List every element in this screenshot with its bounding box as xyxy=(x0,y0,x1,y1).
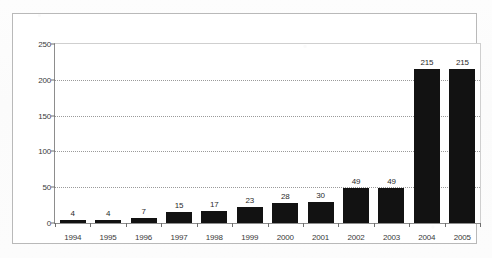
y-tick-label-0: 0 xyxy=(47,219,51,228)
x-tick-label-1994: 1994 xyxy=(64,233,81,242)
x-tick-label-2004: 2004 xyxy=(418,233,435,242)
bar-2003[interactable] xyxy=(378,188,404,223)
bar-group-1999: 231999 xyxy=(232,44,267,223)
bar-2000[interactable] xyxy=(272,203,298,223)
x-tick-mark-2001 xyxy=(303,223,304,227)
bar-value-label-2002: 49 xyxy=(352,177,361,186)
bar-group-1996: 71996 xyxy=(126,44,161,223)
x-tick-mark-end xyxy=(480,223,481,227)
bar-value-label-1996: 7 xyxy=(141,207,145,216)
bar-group-2002: 492002 xyxy=(338,44,373,223)
scanned-page-background: 050100150200250 419944199571996151997171… xyxy=(0,0,492,258)
y-tick-label-250: 250 xyxy=(38,40,51,49)
x-tick-label-2003: 2003 xyxy=(383,233,400,242)
bar-2005[interactable] xyxy=(449,69,475,223)
bar-group-1997: 151997 xyxy=(161,44,196,223)
x-tick-mark-1997 xyxy=(161,223,162,227)
bar-1994[interactable] xyxy=(60,220,86,223)
y-tick-label-50: 50 xyxy=(43,183,52,192)
bar-1998[interactable] xyxy=(201,211,227,223)
bar-2002[interactable] xyxy=(343,188,369,223)
x-tick-mark-1999 xyxy=(232,223,233,227)
bar-value-label-1998: 17 xyxy=(210,200,219,209)
bar-value-label-1999: 23 xyxy=(246,196,255,205)
bar-value-label-2005: 215 xyxy=(456,58,469,67)
x-tick-mark-1998 xyxy=(197,223,198,227)
bar-value-label-2004: 215 xyxy=(420,58,433,67)
chart-plot-area: 050100150200250 419944199571996151997171… xyxy=(54,43,481,224)
x-tick-label-1996: 1996 xyxy=(135,233,152,242)
x-tick-mark-1994 xyxy=(55,223,56,227)
x-tick-mark-1996 xyxy=(126,223,127,227)
x-tick-label-1997: 1997 xyxy=(170,233,187,242)
y-tick-label-100: 100 xyxy=(38,147,51,156)
bar-1997[interactable] xyxy=(166,212,192,223)
x-tick-mark-2003 xyxy=(374,223,375,227)
bar-1996[interactable] xyxy=(131,218,157,223)
bar-value-label-1997: 15 xyxy=(175,201,184,210)
bar-group-1998: 171998 xyxy=(197,44,232,223)
bar-group-2003: 492003 xyxy=(374,44,409,223)
bar-2004[interactable] xyxy=(414,69,440,223)
x-tick-label-2001: 2001 xyxy=(312,233,329,242)
x-tick-label-1999: 1999 xyxy=(241,233,258,242)
x-tick-mark-2004 xyxy=(409,223,410,227)
bar-2001[interactable] xyxy=(308,202,334,223)
bar-group-2001: 302001 xyxy=(303,44,338,223)
bar-group-1994: 41994 xyxy=(55,44,90,223)
x-tick-mark-2000 xyxy=(268,223,269,227)
x-tick-label-2002: 2002 xyxy=(348,233,365,242)
x-tick-label-2005: 2005 xyxy=(454,233,471,242)
x-tick-mark-2002 xyxy=(338,223,339,227)
bar-value-label-2003: 49 xyxy=(387,177,396,186)
bar-value-label-2000: 28 xyxy=(281,192,290,201)
x-tick-label-1995: 1995 xyxy=(100,233,117,242)
bar-1999[interactable] xyxy=(237,207,263,223)
bar-value-label-2001: 30 xyxy=(316,191,325,200)
x-tick-label-2000: 2000 xyxy=(277,233,294,242)
y-tick-label-200: 200 xyxy=(38,75,51,84)
y-tick-label-150: 150 xyxy=(38,111,51,120)
x-tick-mark-2005 xyxy=(445,223,446,227)
bar-group-2005: 2152005 xyxy=(445,44,480,223)
bar-value-label-1994: 4 xyxy=(71,209,75,218)
bar-value-label-1995: 4 xyxy=(106,209,110,218)
x-tick-mark-1995 xyxy=(90,223,91,227)
bar-group-2004: 2152004 xyxy=(409,44,444,223)
bar-1995[interactable] xyxy=(95,220,121,223)
bar-group-2000: 282000 xyxy=(268,44,303,223)
bar-group-1995: 41995 xyxy=(90,44,125,223)
x-tick-label-1998: 1998 xyxy=(206,233,223,242)
chart-figure-frame: 050100150200250 419944199571996151997171… xyxy=(12,13,477,244)
